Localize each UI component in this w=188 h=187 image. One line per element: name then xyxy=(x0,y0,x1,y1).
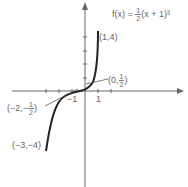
function-label-suffix: (x + 1)³ xyxy=(141,9,170,19)
point-label-m2-mhalf: (−2,−12) xyxy=(7,101,37,116)
x-tick-label-minus-1: −1 xyxy=(67,95,77,104)
function-label: f(x) = 12(x + 1)³ xyxy=(112,7,170,22)
leader-line-p2 xyxy=(86,79,108,84)
p3-suffix: ) xyxy=(34,103,37,113)
p3-prefix: (−2,− xyxy=(7,103,28,113)
function-label-prefix: f(x) = xyxy=(112,9,135,19)
p2-suffix: ) xyxy=(124,75,127,85)
x-tick-label-1: 1 xyxy=(96,95,101,104)
chart-canvas xyxy=(0,0,188,187)
y-axis-arrow-icon xyxy=(82,2,88,10)
point-label-0-half: (0,12) xyxy=(108,73,127,88)
point-label-m3-m4: (−3,−4) xyxy=(12,141,41,150)
x-axis-arrow-icon xyxy=(177,88,184,94)
p2-prefix: (0, xyxy=(108,75,119,85)
point-label-1-4: (1,4) xyxy=(99,33,118,42)
